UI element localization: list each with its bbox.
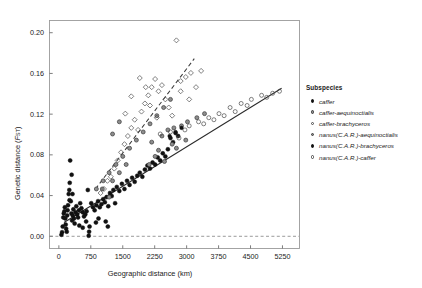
legend-item[interactable]: nanus(C.A.R.)-aequinoctialis [306, 129, 422, 140]
data-point [84, 220, 88, 224]
data-point [70, 192, 74, 196]
data-point [170, 113, 175, 118]
data-point [104, 220, 108, 224]
data-point [78, 201, 82, 205]
data-point [122, 187, 126, 191]
legend-item[interactable]: nanus(C.A.R.)-caffer [306, 151, 422, 162]
data-point [178, 79, 183, 84]
data-point [94, 187, 98, 191]
data-point [202, 122, 206, 126]
data-point [65, 230, 69, 234]
legend-marker-icon [306, 122, 319, 126]
data-point [143, 85, 148, 90]
data-point [153, 77, 158, 82]
data-point [162, 106, 166, 110]
y-tick-label: 0.04 [30, 191, 44, 200]
data-point [147, 163, 151, 167]
data-point [157, 148, 161, 152]
data-point [122, 142, 127, 147]
legend-item[interactable]: caffer [306, 96, 422, 107]
data-point [180, 126, 184, 130]
data-point [187, 97, 192, 102]
legend-item[interactable]: nanus(C.A.R.)-brachyceros [306, 140, 422, 151]
scatter-plot-figure: 07501500225030003750450052500.000.040.08… [0, 0, 422, 288]
data-point [66, 203, 70, 207]
data-point [66, 208, 70, 212]
data-point [148, 122, 152, 126]
data-point [87, 230, 91, 234]
y-tick-label: 0.20 [30, 28, 44, 37]
x-tick-label: 2250 [147, 252, 163, 261]
data-point [174, 38, 179, 43]
data-point [124, 163, 128, 167]
legend-item-label: caffer-aequinoctialis [319, 109, 374, 116]
data-point [239, 101, 243, 105]
data-point [222, 114, 226, 118]
y-axis-label-italic: F [13, 136, 22, 141]
data-point [65, 213, 69, 217]
data-point [125, 179, 129, 183]
data-point [168, 97, 172, 101]
legend-marker-icon [306, 144, 319, 147]
x-axis-label: Geographic distance (km) [0, 269, 300, 278]
x-tick-label: 0 [57, 252, 61, 261]
data-point [233, 110, 237, 114]
data-point [183, 128, 187, 132]
data-point [194, 85, 199, 90]
data-point [166, 147, 170, 151]
data-point [81, 226, 85, 230]
data-point [117, 189, 121, 193]
data-point [137, 76, 142, 81]
legend-marker-icon [306, 133, 319, 137]
data-point [178, 89, 183, 94]
data-point [142, 101, 147, 106]
data-point [149, 85, 154, 90]
data-point [188, 70, 193, 75]
y-tick-label: 0.16 [30, 69, 44, 78]
x-tick-label: 750 [85, 252, 97, 261]
legend-item[interactable]: caffer-aequinoctialis [306, 107, 422, 118]
legend-marker-icon [306, 155, 319, 159]
x-tick-label: 3000 [179, 252, 195, 261]
legend-item-label: nanus(C.A.R.)-brachyceros [319, 142, 394, 149]
data-point [73, 222, 77, 226]
data-point [143, 168, 147, 172]
data-point [103, 200, 107, 204]
data-point [130, 176, 134, 180]
data-point [199, 68, 204, 73]
data-point [141, 130, 145, 134]
data-point [128, 146, 132, 150]
data-point [184, 138, 188, 142]
data-point [195, 116, 199, 120]
data-point [187, 124, 191, 128]
data-point [68, 181, 72, 185]
y-tick-label: 0.00 [30, 232, 44, 241]
legend-item[interactable]: caffer-brachyceros [306, 118, 422, 129]
x-tick-label: 5250 [274, 252, 290, 261]
data-point [217, 112, 221, 116]
y-axis-label-close: ) [13, 127, 22, 129]
legend-items: caffercaffer-aequinoctialiscaffer-brachy… [306, 96, 422, 163]
data-point [134, 138, 138, 142]
data-point [67, 188, 71, 192]
data-point [170, 142, 174, 146]
data-point [96, 216, 100, 220]
data-point [132, 117, 137, 122]
data-point [260, 93, 264, 97]
legend-item-label: nanus(C.A.R.)-aequinoctialis [319, 131, 398, 138]
data-point [174, 146, 178, 150]
legend-item-label: caffer [319, 98, 334, 105]
data-point [133, 180, 137, 184]
data-point [174, 130, 178, 134]
data-point [146, 93, 151, 98]
data-point [228, 106, 232, 110]
data-point [163, 154, 167, 158]
x-tick-label: 4500 [243, 252, 259, 261]
data-point [89, 201, 93, 205]
data-point [197, 120, 201, 124]
data-point [172, 126, 176, 130]
data-point [85, 209, 89, 213]
legend-marker-icon [306, 110, 319, 114]
data-point [115, 185, 119, 189]
data-point [68, 158, 72, 162]
